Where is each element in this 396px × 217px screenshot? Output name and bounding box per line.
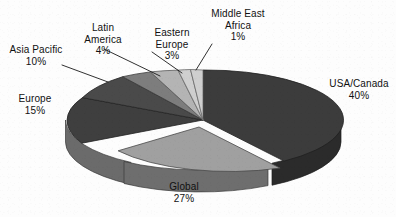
label-global: Global 27% — [151, 181, 217, 204]
label-latin-america-name2: America — [72, 34, 134, 46]
label-europe: Europe 15% — [4, 93, 66, 116]
label-global-value: 27% — [151, 193, 217, 205]
pie-chart-figure: USA/Canada 40% Global 27% Europe 15% Asi… — [0, 0, 396, 217]
label-europe-value: 15% — [4, 105, 66, 117]
leader-line-asia-pacific — [62, 65, 108, 82]
label-usa-canada-value: 40% — [322, 90, 396, 102]
label-asia-pacific: Asia Pacific 10% — [2, 44, 70, 67]
label-latin-america: Latin America 4% — [72, 22, 134, 57]
label-usa-canada-name: USA/Canada — [329, 78, 388, 89]
label-middle-east-africa-name2: Africa — [196, 20, 280, 32]
label-latin-america-name: Latin — [92, 22, 114, 33]
label-middle-east-africa-name: Middle East — [211, 8, 264, 19]
label-latin-america-value: 4% — [72, 45, 134, 57]
label-middle-east-africa: Middle East Africa 1% — [196, 8, 280, 43]
label-global-name: Global — [169, 181, 199, 192]
label-middle-east-africa-value: 1% — [196, 31, 280, 43]
label-asia-pacific-name: Asia Pacific — [10, 44, 63, 55]
label-eastern-europe-name: Eastern — [154, 27, 189, 38]
label-eastern-europe-value: 3% — [139, 50, 205, 62]
label-asia-pacific-value: 10% — [2, 56, 70, 68]
label-europe-name: Europe — [19, 93, 52, 104]
label-usa-canada: USA/Canada 40% — [322, 78, 396, 101]
